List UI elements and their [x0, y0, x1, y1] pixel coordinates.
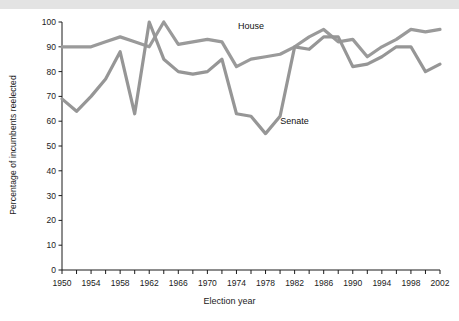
x-tick-label: 1974	[227, 278, 246, 288]
top-gray-band	[0, 0, 459, 9]
y-tick-label: 80	[47, 67, 57, 77]
series-label-senate: Senate	[280, 116, 309, 126]
x-tick-label: 1986	[314, 278, 333, 288]
x-tick-label: 1982	[285, 278, 304, 288]
y-tick-label: 60	[47, 116, 57, 126]
x-tick-label: 1966	[169, 278, 188, 288]
y-tick-label: 30	[47, 191, 57, 201]
line-chart-plot: 0102030405060708090100195019541958196219…	[0, 0, 459, 321]
chart-figure: Percentage of incumbents reelected Elect…	[0, 0, 459, 321]
y-tick-label: 90	[47, 42, 57, 52]
x-tick-label: 1998	[401, 278, 420, 288]
x-tick-label: 1990	[343, 278, 362, 288]
x-tick-label: 2002	[431, 278, 450, 288]
y-tick-label: 20	[47, 215, 57, 225]
x-tick-label: 1954	[82, 278, 101, 288]
x-tick-label: 1950	[53, 278, 72, 288]
y-tick-label: 70	[47, 91, 57, 101]
y-tick-label: 40	[47, 166, 57, 176]
x-tick-label: 1958	[111, 278, 130, 288]
x-tick-label: 1962	[140, 278, 159, 288]
x-tick-label: 1978	[256, 278, 275, 288]
series-label-house: House	[238, 21, 264, 31]
x-tick-label: 1994	[372, 278, 391, 288]
x-axis-title: Election year	[0, 296, 459, 306]
y-tick-label: 0	[51, 265, 56, 275]
y-tick-label: 50	[47, 141, 57, 151]
x-tick-label: 1970	[198, 278, 217, 288]
y-tick-label: 10	[47, 240, 57, 250]
y-tick-label: 100	[42, 17, 56, 27]
y-axis-title: Percentage of incumbents reelected	[8, 20, 18, 270]
